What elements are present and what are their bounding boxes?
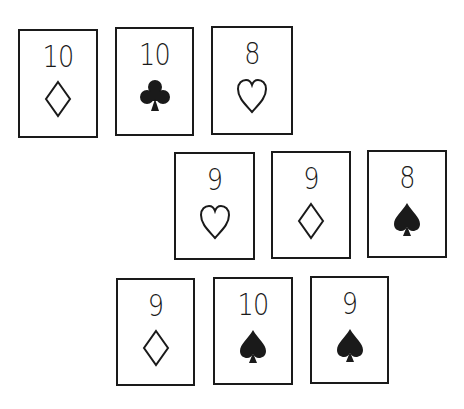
card-rank: 9 [279, 163, 344, 195]
card-rank: 9 [182, 164, 247, 196]
spade-icon [215, 327, 291, 367]
card-rank: 9 [124, 290, 188, 322]
card-rank: 10 [26, 41, 91, 73]
diamond-icon [20, 79, 96, 119]
heart-icon [176, 202, 253, 242]
club-icon [117, 77, 192, 117]
card-8-spade: 8 [367, 150, 447, 258]
card-9-diamond: 9 [116, 278, 195, 386]
card-rank: 10 [221, 289, 286, 321]
card-10-spade: 10 [213, 277, 293, 385]
spade-icon [312, 326, 387, 366]
diamond-icon [118, 328, 193, 368]
card-9-spade: 9 [310, 276, 389, 384]
diamond-icon [273, 201, 349, 241]
card-rank: 8 [375, 162, 440, 194]
card-10-diamond: 10 [18, 29, 98, 138]
spade-icon [369, 200, 445, 240]
heart-icon [213, 76, 291, 116]
card-10-club: 10 [115, 27, 194, 136]
card-rank: 10 [123, 39, 187, 71]
card-rank: 9 [318, 288, 382, 320]
card-8-heart: 8 [211, 26, 293, 135]
card-9-diamond: 9 [271, 151, 351, 259]
card-9-heart: 9 [174, 152, 255, 260]
card-rank: 8 [219, 38, 285, 70]
